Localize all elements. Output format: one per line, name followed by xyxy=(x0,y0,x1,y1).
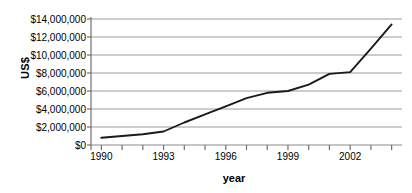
x-tick-label: 2002 xyxy=(339,151,361,162)
x-tick-label: 1999 xyxy=(277,151,299,162)
x-tick-label: 1996 xyxy=(215,151,237,162)
data-series-line xyxy=(101,24,391,137)
x-tick-label: 1993 xyxy=(152,151,174,162)
line-chart: US$ $0$2,000,000$4,000,000$6,000,000$8,0… xyxy=(0,0,412,193)
x-axis-title: year xyxy=(0,172,412,184)
plot-area xyxy=(0,0,412,193)
x-tick-label: 1990 xyxy=(90,151,112,162)
